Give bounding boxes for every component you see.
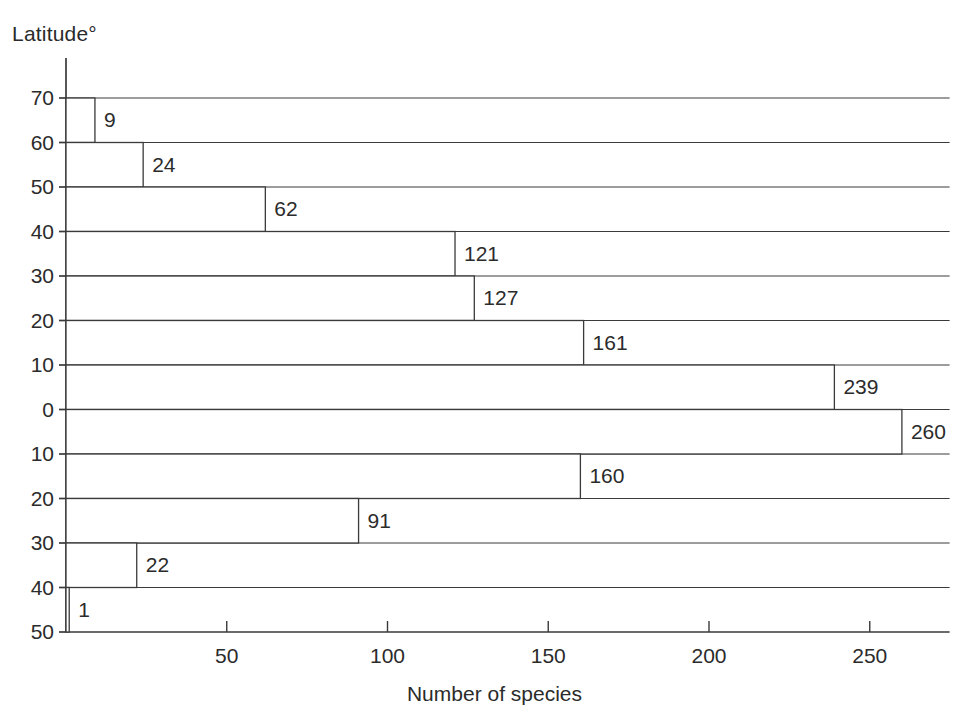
bar-20-30 xyxy=(66,499,359,544)
bar-value-label: 91 xyxy=(368,510,391,531)
y-axis-title: Latitude° xyxy=(12,22,97,46)
bar-value-label: 22 xyxy=(146,554,169,575)
y-tick-label: 40 xyxy=(8,577,54,598)
y-tick-label: 40 xyxy=(8,221,54,242)
bar-value-label: 160 xyxy=(589,465,624,486)
bar-70-60 xyxy=(66,98,95,143)
bar-value-label: 161 xyxy=(593,332,628,353)
bar-50-40 xyxy=(66,187,265,232)
chart-plot-area xyxy=(0,0,959,724)
bar-40-30 xyxy=(66,232,455,277)
bar-value-label: 62 xyxy=(274,198,297,219)
y-tick-label: 10 xyxy=(8,443,54,464)
bar-60-50 xyxy=(66,143,143,188)
x-tick-label: 150 xyxy=(531,645,566,666)
y-tick-label: 30 xyxy=(8,532,54,553)
bar-10-0 xyxy=(66,365,834,410)
bar-0-10 xyxy=(66,410,902,455)
bar-value-label: 260 xyxy=(911,421,946,442)
y-tick-label: 0 xyxy=(8,399,54,420)
bar-30-40 xyxy=(66,543,137,588)
y-tick-label: 10 xyxy=(8,354,54,375)
bar-value-label: 1 xyxy=(78,599,90,620)
y-tick-label: 50 xyxy=(8,621,54,642)
latitude-species-bar-chart: Latitude° 7060504030201001020304050 5010… xyxy=(0,0,959,724)
bar-value-label: 239 xyxy=(843,376,878,397)
y-tick-label: 30 xyxy=(8,265,54,286)
y-tick-label: 50 xyxy=(8,176,54,197)
bar-value-label: 24 xyxy=(152,154,175,175)
x-axis-title: Number of species xyxy=(0,682,959,706)
y-tick-label: 70 xyxy=(8,87,54,108)
y-tick-label: 20 xyxy=(8,488,54,509)
bar-10-20 xyxy=(66,454,580,499)
bar-30-20 xyxy=(66,276,474,321)
x-tick-label: 100 xyxy=(370,645,405,666)
bar-20-10 xyxy=(66,321,584,366)
bar-value-label: 9 xyxy=(104,109,116,130)
y-tick-label: 20 xyxy=(8,310,54,331)
x-tick-label: 200 xyxy=(691,645,726,666)
bar-value-label: 121 xyxy=(464,243,499,264)
y-tick-label: 60 xyxy=(8,132,54,153)
x-axis-title-text: Number of species xyxy=(377,682,582,705)
x-tick-label: 50 xyxy=(215,645,238,666)
x-tick-label: 250 xyxy=(852,645,887,666)
bar-40-50 xyxy=(66,588,69,633)
bar-value-label: 127 xyxy=(483,287,518,308)
